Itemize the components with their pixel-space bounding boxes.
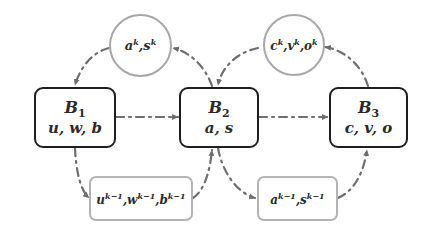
state-label: ck,vk,ok [270, 37, 317, 53]
arrow-b1-to-state-ukm1 [75, 148, 89, 198]
arrow-b2-to-state-akm1 [218, 148, 255, 198]
block-vars: a, s [205, 120, 234, 137]
block-vars: c, v, o [345, 120, 393, 137]
state-label: ak,sk [125, 37, 156, 53]
state-rect-ukm1-wkm1-bkm1: uk−1,wk−1,bk−1 [89, 176, 193, 221]
arrow-b3-to-state-ck [325, 47, 368, 86]
state-circle-ak-sk: ak,sk [109, 14, 172, 77]
block-title: B2 [208, 99, 229, 120]
block-title: B1 [64, 99, 85, 120]
state-label: uk−1,wk−1,bk−1 [96, 191, 185, 207]
arrow-state-akm1-to-b3 [338, 150, 367, 198]
block-vars: u, w, b [48, 120, 102, 137]
arrow-b2-to-state-ak [173, 48, 212, 86]
block-b1: B1 u, w, b [34, 87, 116, 148]
arrow-state-ck-to-b2 [218, 48, 258, 85]
block-b3: B3 c, v, o [329, 87, 408, 148]
state-circle-ck-vk-ok: ck,vk,ok [263, 14, 325, 76]
state-rect-akm1-skm1: ak−1,sk−1 [257, 176, 338, 221]
block-b2: B2 a, s [179, 87, 259, 148]
state-label: ak−1,sk−1 [270, 191, 324, 207]
arrow-state-ak-to-b1 [75, 48, 109, 85]
block-title: B3 [358, 99, 379, 120]
arrow-state-ukm1-to-b2 [193, 150, 212, 198]
